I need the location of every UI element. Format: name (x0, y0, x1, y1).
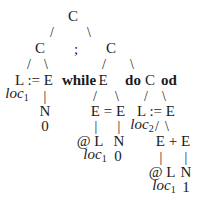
edge-root-left: / (50, 25, 54, 40)
equality-node: E = E (91, 104, 125, 119)
left-command-node: C (35, 41, 45, 56)
edge-assign1-n: | (44, 89, 47, 104)
edge-body-right: \ (162, 89, 166, 104)
edge-right-c-right: \ (130, 57, 134, 72)
od-keyword: od (161, 73, 177, 88)
edge-assign2-right: \ (165, 119, 169, 134)
edge-right-c-left: / (102, 57, 106, 72)
edge-root-right: \ (87, 25, 91, 40)
edge-plus-left: | (160, 150, 163, 165)
numeral-value-1: 1 (182, 180, 190, 195)
numeral-node-2: N (114, 134, 125, 149)
while-condition-node: E (98, 73, 107, 88)
do-keyword: do (125, 73, 141, 88)
numeral-value-0-a: 0 (41, 119, 49, 134)
location-loc1-b: loc1 (83, 147, 106, 166)
edge-cond-right: \ (115, 89, 119, 104)
numeral-node-1: N (40, 104, 51, 119)
addition-node: E + E (156, 134, 190, 149)
edge-body-left: / (144, 89, 148, 104)
edge-eq-left: | (95, 119, 98, 134)
numeral-node-3: N (181, 165, 192, 180)
right-command-node: C (106, 41, 116, 56)
edge-eq-right: | (118, 119, 121, 134)
edge-assign2-left: / (155, 119, 159, 134)
edge-left-c-right: \ (44, 57, 48, 72)
edge-plus-right: | (185, 150, 188, 165)
while-keyword: while (62, 73, 96, 88)
location-loc1-c: loc1 (152, 178, 175, 197)
edge-left-c-left: / (27, 57, 31, 72)
location-loc2: loc2 (130, 117, 153, 136)
loop-body-command-node: C (145, 73, 155, 88)
root-command-node: C (68, 9, 78, 24)
location-loc1-a: loc1 (5, 86, 28, 105)
numeral-value-0-b: 0 (114, 149, 122, 164)
sequence-semicolon: ; (74, 42, 78, 57)
edge-cond-left: / (93, 89, 97, 104)
